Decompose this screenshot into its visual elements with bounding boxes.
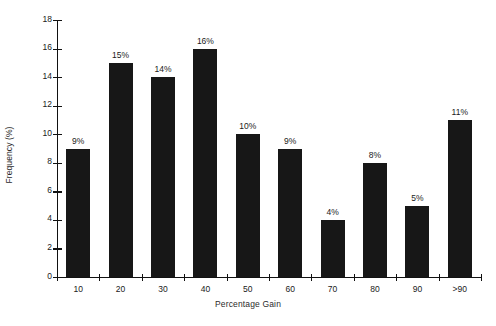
y-tick: 10	[57, 134, 58, 135]
y-tick-mark	[53, 20, 62, 21]
x-tick-mark	[439, 274, 440, 281]
y-tick: 16	[57, 49, 58, 50]
bar	[66, 149, 90, 278]
y-tick: 18	[57, 20, 58, 21]
y-tick-mark	[53, 191, 62, 192]
y-tick: 14	[57, 77, 58, 78]
x-category-label: 20	[116, 284, 125, 294]
x-category-label: 90	[413, 284, 422, 294]
y-tick-mark	[53, 106, 62, 107]
bar	[193, 49, 217, 277]
x-category-label: 70	[328, 284, 337, 294]
bar-value-label: 15%	[112, 50, 129, 60]
x-category-label: 40	[201, 284, 210, 294]
y-tick-mark	[53, 77, 62, 78]
bar	[321, 220, 345, 277]
bar	[278, 149, 302, 278]
y-tick-label: 6	[47, 185, 52, 195]
y-tick-label: 8	[47, 156, 52, 166]
x-category-label: 60	[285, 284, 294, 294]
y-tick-label: 14	[43, 71, 52, 81]
x-axis-title: Percentage Gain	[148, 299, 348, 309]
y-axis-line	[57, 20, 58, 278]
bar-value-label: 8%	[369, 150, 381, 160]
y-tick-mark	[53, 248, 62, 249]
y-tick: 12	[57, 106, 58, 107]
x-tick-mark	[311, 274, 312, 281]
x-tick-mark	[57, 274, 58, 281]
x-category-label: 80	[370, 284, 379, 294]
bar-value-label: 9%	[284, 136, 296, 146]
x-tick-mark	[396, 274, 397, 281]
bar-value-label: 4%	[326, 207, 338, 217]
y-tick: 4	[57, 220, 58, 221]
x-category-label: 50	[243, 284, 252, 294]
bar	[363, 163, 387, 277]
y-tick: 6	[57, 191, 58, 192]
x-tick-mark	[481, 274, 482, 281]
bar	[109, 63, 133, 277]
y-tick-mark	[53, 49, 62, 50]
x-tick-mark	[354, 274, 355, 281]
bar	[151, 77, 175, 277]
x-tick-mark	[184, 274, 185, 281]
x-category-label: >90	[453, 284, 467, 294]
x-category-label: 30	[158, 284, 167, 294]
y-tick-label: 12	[43, 99, 52, 109]
plot-area: 024681012141618 9%15%14%16%10%9%4%8%5%11…	[57, 20, 481, 278]
y-tick: 8	[57, 163, 58, 164]
bar	[448, 120, 472, 277]
y-tick-label: 10	[43, 128, 52, 138]
bar	[405, 206, 429, 277]
y-tick-mark	[53, 163, 62, 164]
y-tick-label: 2	[47, 242, 52, 252]
bar-value-label: 11%	[452, 107, 468, 117]
x-tick-mark	[99, 274, 100, 281]
x-tick-mark	[227, 274, 228, 281]
bar-value-label: 14%	[154, 64, 171, 74]
bar	[236, 134, 260, 277]
y-axis-title: Frequency (%)	[4, 100, 18, 210]
bar-value-label: 10%	[239, 121, 256, 131]
y-tick-mark	[53, 134, 62, 135]
x-tick-mark	[142, 274, 143, 281]
x-tick-mark	[269, 274, 270, 281]
y-tick-label: 0	[47, 271, 52, 281]
y-tick: 2	[57, 248, 58, 249]
y-tick-label: 18	[43, 14, 52, 24]
y-tick-label: 16	[43, 42, 52, 52]
y-tick-label: 4	[47, 213, 52, 223]
x-category-label: 10	[73, 284, 82, 294]
bar-chart: Frequency (%) 024681012141618 9%15%14%16…	[0, 0, 496, 326]
y-tick-mark	[53, 220, 62, 221]
bar-value-label: 16%	[197, 36, 214, 46]
bar-value-label: 9%	[72, 136, 84, 146]
bar-value-label: 5%	[411, 193, 423, 203]
